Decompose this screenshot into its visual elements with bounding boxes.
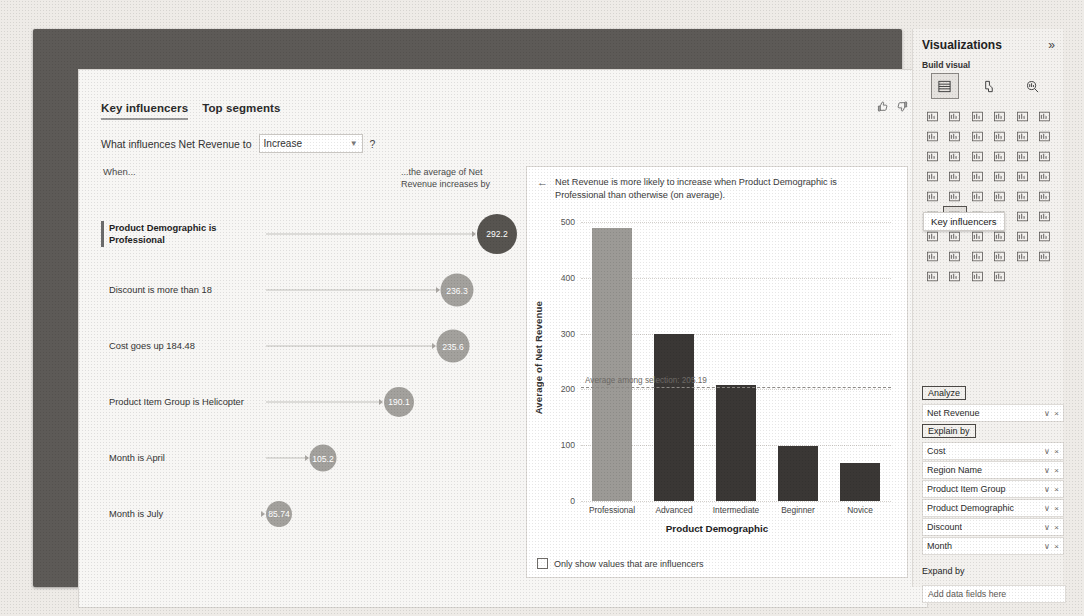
- tab-key-influencers[interactable]: Key influencers: [101, 102, 188, 120]
- funnel-icon[interactable]: [944, 147, 966, 165]
- map-icon[interactable]: [921, 167, 943, 185]
- feedback-icons[interactable]: [876, 100, 909, 113]
- bar[interactable]: [778, 446, 819, 501]
- analyze-field-well[interactable]: Net Revenue∨×: [922, 404, 1064, 422]
- pie-icon[interactable]: [989, 147, 1011, 165]
- explain-by-field-well[interactable]: Product Demographic∨×: [922, 499, 1064, 517]
- table-matrix-icon[interactable]: [1034, 167, 1056, 185]
- chevron-down-icon[interactable]: ∨: [1044, 504, 1050, 513]
- tree-custom-icon[interactable]: [966, 247, 988, 265]
- chevron-down-icon[interactable]: ∨: [1044, 447, 1050, 456]
- expand-by-dropzone[interactable]: Add data fields here: [922, 585, 1066, 603]
- influencer-bubble[interactable]: 105.2: [310, 445, 337, 472]
- bubble-custom-icon[interactable]: [989, 247, 1011, 265]
- key-influencers-visual[interactable]: Key influencers Top segments What influe…: [78, 69, 928, 608]
- influencer-bubble[interactable]: 235.6: [437, 330, 470, 363]
- chevron-down-icon[interactable]: ∨: [1044, 466, 1050, 475]
- bars-v-icon[interactable]: [944, 107, 966, 125]
- influencer-bubble[interactable]: 190.1: [384, 387, 414, 417]
- bar[interactable]: [840, 463, 881, 501]
- slicer-icon[interactable]: [1011, 187, 1033, 205]
- chevron-down-icon[interactable]: ∨: [1044, 485, 1050, 494]
- analytics-icon[interactable]: [1019, 74, 1045, 98]
- help-icon[interactable]: ?: [370, 138, 376, 150]
- line-icon[interactable]: [921, 127, 943, 145]
- shape-map-icon[interactable]: [1011, 167, 1033, 185]
- bar[interactable]: [716, 385, 757, 501]
- explain-by-field-well[interactable]: Cost∨×: [922, 442, 1064, 460]
- influencer-bubble[interactable]: 292.2: [477, 214, 517, 254]
- matrix-icon[interactable]: [921, 187, 943, 205]
- bar[interactable]: [654, 334, 695, 501]
- treemap-icon[interactable]: [1034, 147, 1056, 165]
- back-arrow-icon[interactable]: ←: [537, 176, 548, 203]
- waterfall-icon[interactable]: [921, 147, 943, 165]
- more-icon[interactable]: [1034, 227, 1056, 245]
- influencer-row[interactable]: Month is April105.2: [101, 430, 513, 486]
- influencer-row[interactable]: Product Demographic is Professional292.2: [101, 206, 513, 262]
- spline-icon[interactable]: [944, 267, 966, 285]
- network-icon[interactable]: [921, 267, 943, 285]
- smart-narrative-icon[interactable]: [1011, 207, 1033, 225]
- remove-field-icon[interactable]: ×: [1054, 523, 1059, 532]
- influence-direction-select[interactable]: Increase ▼: [259, 134, 363, 153]
- col-tall-icon[interactable]: [1034, 107, 1056, 125]
- grid-custom-icon[interactable]: [944, 247, 966, 265]
- play-axis-icon[interactable]: [1011, 227, 1033, 245]
- visual-tabs[interactable]: Key influencers Top segments: [101, 102, 280, 120]
- area-icon[interactable]: [944, 127, 966, 145]
- bars-group-icon[interactable]: [1011, 107, 1033, 125]
- explain-by-field-well[interactable]: Product Item Group∨×: [922, 480, 1064, 498]
- question-row[interactable]: What influences Net Revenue to Increase …: [101, 134, 375, 153]
- col-cluster-icon[interactable]: [989, 107, 1011, 125]
- combo-col-icon[interactable]: [1011, 127, 1033, 145]
- bars-stack-icon[interactable]: [966, 107, 988, 125]
- multi-row-card-icon[interactable]: [966, 187, 988, 205]
- explain-by-field-well[interactable]: Region Name∨×: [922, 461, 1064, 479]
- remove-field-icon[interactable]: ×: [1054, 542, 1059, 551]
- filled-map-icon[interactable]: [944, 167, 966, 185]
- azure-map-icon[interactable]: [966, 167, 988, 185]
- remove-field-icon[interactable]: ×: [1054, 447, 1059, 456]
- explain-by-field-well[interactable]: Discount∨×: [922, 518, 1064, 536]
- tab-top-segments[interactable]: Top segments: [202, 102, 280, 118]
- metrics-icon[interactable]: [1034, 207, 1056, 225]
- bars-h-icon[interactable]: [921, 107, 943, 125]
- combo-line-icon[interactable]: [989, 127, 1011, 145]
- arcgis-icon[interactable]: [989, 167, 1011, 185]
- only-influencers-checkbox[interactable]: [537, 558, 548, 569]
- influencer-bubble[interactable]: 85.74: [266, 501, 292, 527]
- influencer-row[interactable]: Product Item Group is Helicopter190.1: [101, 374, 513, 430]
- donut-icon[interactable]: [1011, 147, 1033, 165]
- influencer-bubble[interactable]: 236.3: [441, 274, 474, 307]
- thumbs-up-icon[interactable]: [876, 100, 889, 113]
- chevron-down-icon[interactable]: ∨: [1044, 542, 1050, 551]
- visual-type-gallery[interactable]: [921, 107, 1055, 285]
- kpi-icon[interactable]: [989, 187, 1011, 205]
- ribbon-icon[interactable]: [1034, 127, 1056, 145]
- scatter-icon[interactable]: [966, 147, 988, 165]
- remove-field-icon[interactable]: ×: [1054, 409, 1059, 418]
- bar-small-icon[interactable]: [989, 267, 1011, 285]
- remove-field-icon[interactable]: ×: [1054, 485, 1059, 494]
- influencer-row[interactable]: Cost goes up 184.48235.6: [101, 318, 513, 374]
- influencer-row[interactable]: Month is July85.74: [101, 486, 513, 542]
- only-influencers-row[interactable]: Only show values that are influencers: [537, 558, 704, 569]
- card-icon[interactable]: [944, 187, 966, 205]
- r-visual-icon[interactable]: [1034, 187, 1056, 205]
- star-icon[interactable]: [921, 247, 943, 265]
- thumbs-down-icon[interactable]: [896, 100, 909, 113]
- pane-mode-buttons[interactable]: [922, 73, 1054, 99]
- chevron-double-right-icon[interactable]: »: [1048, 38, 1055, 52]
- chevron-down-icon[interactable]: ∨: [1044, 409, 1050, 418]
- build-visual-icon[interactable]: [931, 73, 959, 99]
- remove-field-icon[interactable]: ×: [1054, 504, 1059, 513]
- remove-field-icon[interactable]: ×: [1054, 466, 1059, 475]
- bar[interactable]: [592, 228, 633, 501]
- chart-custom-icon[interactable]: [1011, 247, 1033, 265]
- panel-custom-icon[interactable]: [1034, 247, 1056, 265]
- area-stack-icon[interactable]: [966, 127, 988, 145]
- format-visual-icon[interactable]: [976, 74, 1002, 98]
- dark-custom-icon[interactable]: [966, 267, 988, 285]
- influencer-row[interactable]: Discount is more than 18236.3: [101, 262, 513, 318]
